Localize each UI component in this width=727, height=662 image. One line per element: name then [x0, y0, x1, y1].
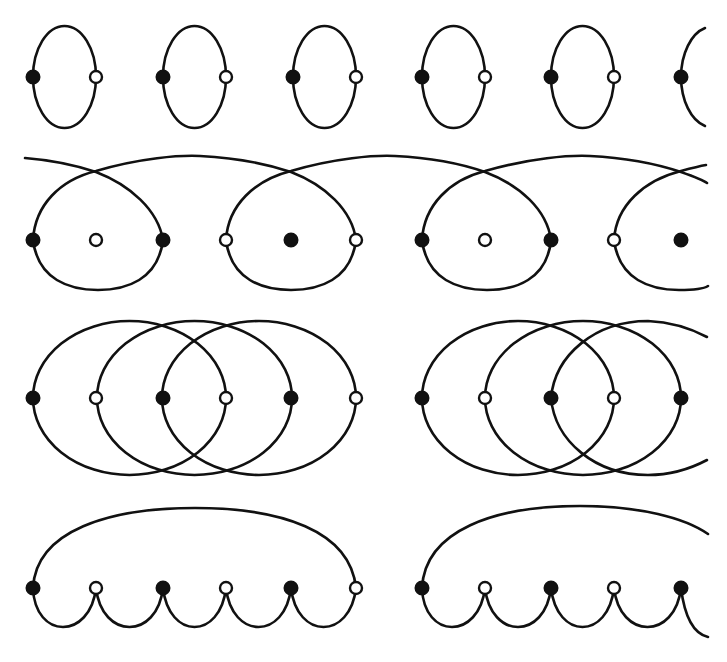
filled-vertex	[157, 582, 170, 595]
open-vertex	[90, 71, 102, 83]
row-2-crossed-loops	[25, 156, 708, 290]
filled-vertex	[157, 392, 170, 405]
filled-vertex	[27, 234, 40, 247]
open-vertex	[479, 71, 491, 83]
open-vertex	[220, 234, 232, 246]
row-1-simple-bubbles	[33, 26, 705, 128]
filled-vertex	[27, 71, 40, 84]
filled-vertex	[285, 234, 298, 247]
bubble-loop	[163, 26, 226, 128]
open-vertex	[90, 392, 102, 404]
loop-lower-arc	[422, 240, 551, 290]
open-vertex	[479, 234, 491, 246]
filled-vertex	[675, 71, 688, 84]
loop-diagram-figure	[0, 0, 727, 662]
filled-vertex	[545, 71, 558, 84]
open-vertex	[220, 582, 232, 594]
filled-vertex	[157, 71, 170, 84]
filled-vertex	[285, 582, 298, 595]
filled-vertex	[416, 582, 429, 595]
ellipse-loop	[162, 321, 356, 475]
open-vertex	[608, 234, 620, 246]
ellipse-loop	[485, 321, 681, 475]
open-vertex	[220, 392, 232, 404]
ellipse-loop	[33, 321, 226, 475]
filled-vertex	[675, 234, 688, 247]
filled-vertex	[545, 234, 558, 247]
row-2-nodes	[27, 234, 688, 247]
outer-top-arc-partial	[422, 506, 708, 588]
scallop-chain	[33, 588, 356, 627]
outer-top-arc	[33, 508, 356, 588]
open-vertex	[479, 582, 491, 594]
filled-vertex	[545, 582, 558, 595]
filled-vertex	[416, 234, 429, 247]
open-vertex	[350, 71, 362, 83]
ellipse-loop	[422, 321, 614, 475]
scallop-chain-partial	[422, 588, 708, 637]
loop-lower-arc-partial	[614, 240, 708, 290]
loop-upper-crossing-arc-partial	[25, 158, 163, 240]
open-vertex	[608, 582, 620, 594]
filled-vertex	[285, 392, 298, 405]
ellipse-loop	[97, 321, 292, 475]
bubble-loop	[293, 26, 356, 128]
filled-vertex	[287, 71, 300, 84]
filled-vertex	[416, 392, 429, 405]
row-3-nodes	[27, 392, 688, 405]
row-3-overlapping-ellipses	[33, 321, 707, 475]
open-vertex	[608, 392, 620, 404]
filled-vertex	[675, 392, 688, 405]
open-vertex	[479, 392, 491, 404]
filled-vertex	[27, 392, 40, 405]
bubble-loop	[33, 26, 96, 128]
open-vertex	[608, 71, 620, 83]
open-vertex	[350, 234, 362, 246]
row-4-scalloped-chain	[33, 506, 708, 637]
row-1-nodes	[27, 71, 688, 84]
open-vertex	[90, 234, 102, 246]
open-vertex	[90, 582, 102, 594]
filled-vertex	[416, 71, 429, 84]
filled-vertex	[27, 582, 40, 595]
open-vertex	[220, 71, 232, 83]
loop-upper-crossing-arc	[422, 156, 707, 240]
filled-vertex	[675, 582, 688, 595]
filled-vertex	[157, 234, 170, 247]
open-vertex	[350, 392, 362, 404]
bubble-loop	[551, 26, 614, 128]
loop-lower-arc	[33, 240, 163, 290]
open-vertex	[350, 582, 362, 594]
bubble-loop	[422, 26, 485, 128]
row-4-nodes	[27, 582, 688, 595]
filled-vertex	[545, 392, 558, 405]
